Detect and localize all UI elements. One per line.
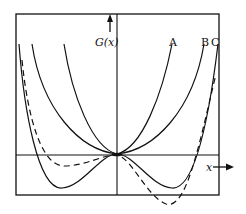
y-axis-label: G(x) [95,36,119,49]
origin-contact [112,153,122,157]
free-energy-diagram: G(x) x A B C [0,0,246,214]
y-arrow-icon [107,14,113,22]
curve-b [32,44,204,154]
curve-label-a: A [168,36,178,49]
x-arrow-icon [226,164,234,171]
curve-c [19,44,218,188]
x-axis-label: x [206,161,213,174]
curve-label-b: B [201,36,209,49]
